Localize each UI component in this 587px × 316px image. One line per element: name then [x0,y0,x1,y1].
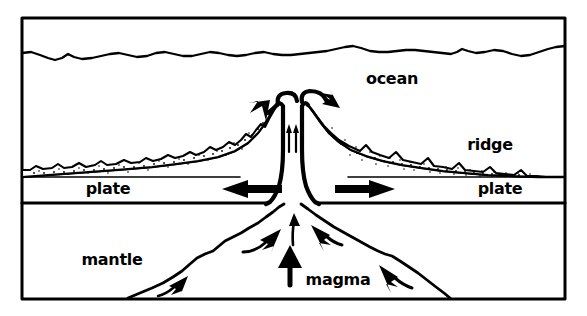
label-mantle: mantle [81,250,142,269]
lava-arrow-right-tail [326,100,331,103]
seafloor-spreading-diagram: ocean ridge plate plate mantle magma [0,0,587,316]
label-plate-right: plate [478,179,523,198]
diagram-canvas: ocean ridge plate plate mantle magma [0,0,587,316]
label-magma: magma [306,270,371,289]
label-ocean: ocean [366,69,418,88]
label-plate-left: plate [86,179,131,198]
label-ridge: ridge [467,135,513,154]
